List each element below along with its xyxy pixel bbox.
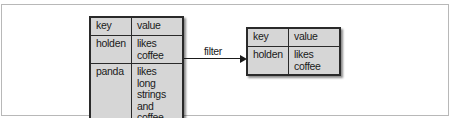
value-cell: value — [289, 28, 341, 47]
value-cell: likes coffee — [132, 36, 184, 64]
value-cell: likes long strings and coffee — [132, 64, 184, 119]
key-cell: key — [247, 28, 289, 47]
key-cell: holden — [90, 36, 132, 64]
key-cell: holden — [247, 47, 289, 76]
value-cell: likes coffee — [289, 47, 341, 76]
filter-arrow-line — [184, 58, 241, 59]
result-table: key value holden likes coffee — [246, 27, 341, 76]
filter-label: filter — [204, 45, 222, 57]
table-row: holden likes coffee — [90, 36, 183, 64]
value-cell: value — [132, 17, 184, 36]
key-cell: key — [90, 17, 132, 36]
table-row: holden likes coffee — [247, 47, 340, 76]
table-row: panda likes long strings and coffee — [90, 64, 183, 119]
table-row: key value — [90, 17, 183, 36]
table-row: key value — [247, 28, 340, 47]
diagram-frame — [1, 4, 449, 116]
source-table: key value holden likes coffee panda like… — [89, 16, 184, 118]
key-cell: panda — [90, 64, 132, 119]
